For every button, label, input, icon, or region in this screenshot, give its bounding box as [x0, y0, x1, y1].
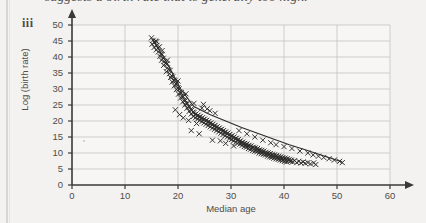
x-tick-label: 50 [325, 191, 349, 201]
y-tick-label: 0 [39, 180, 63, 190]
x-axis-title: Median age [72, 203, 390, 214]
x-tick-label: 60 [378, 191, 402, 201]
y-tick-label: 30 [39, 84, 63, 94]
y-tick-label: 25 [39, 100, 63, 110]
chart-canvas [0, 0, 426, 223]
x-tick-label: 40 [272, 191, 296, 201]
y-axis-title: Log (birth rate) [19, 10, 30, 150]
paper-speck [83, 140, 85, 142]
y-tick-label: 50 [39, 20, 63, 30]
x-tick-label: 20 [166, 191, 190, 201]
y-tick-label: 45 [39, 36, 63, 46]
scanned-page: suggests a birth rate that is generally … [0, 0, 426, 223]
x-tick-label: 0 [60, 191, 84, 201]
y-tick-label: 35 [39, 68, 63, 78]
y-tick-label: 20 [39, 116, 63, 126]
y-tick-label: 40 [39, 52, 63, 62]
y-tick-label: 10 [39, 148, 63, 158]
x-tick-label: 30 [219, 191, 243, 201]
x-tick-label: 10 [113, 191, 137, 201]
scatter-chart: Log (birth rate) Median age 051015202530… [0, 0, 426, 223]
y-tick-label: 5 [39, 164, 63, 174]
y-tick-label: 15 [39, 132, 63, 142]
